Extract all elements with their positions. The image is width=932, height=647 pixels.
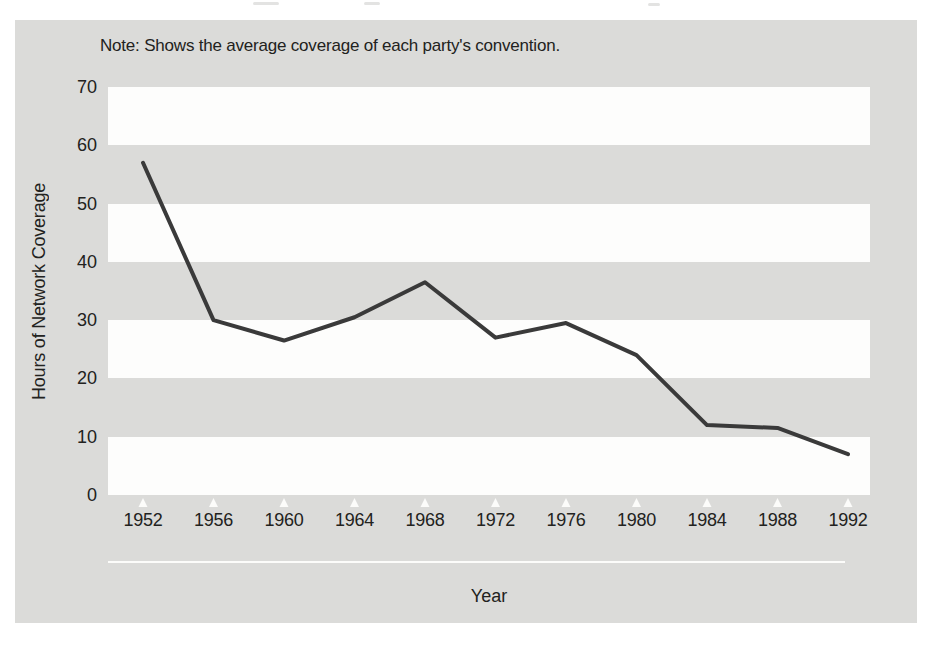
x-tick-marker bbox=[632, 498, 641, 507]
y-axis-title: Hours of Network Coverage bbox=[29, 87, 55, 495]
x-tick-marker bbox=[209, 498, 218, 507]
y-tick-label: 10 bbox=[55, 427, 97, 447]
chart-note: Note: Shows the average coverage of each… bbox=[100, 36, 560, 56]
y-tick-label: 40 bbox=[55, 252, 97, 272]
x-tick-label: 1992 bbox=[812, 509, 884, 531]
y-tick-label: 50 bbox=[55, 194, 97, 214]
x-tick-label: 1988 bbox=[742, 509, 814, 531]
scan-artifact bbox=[253, 2, 279, 5]
y-tick-label: 20 bbox=[55, 368, 97, 388]
axis-separator-line bbox=[108, 561, 845, 563]
x-tick-marker bbox=[773, 498, 782, 507]
scan-artifact bbox=[648, 3, 660, 6]
x-tick-label: 1952 bbox=[107, 509, 179, 531]
scan-artifact bbox=[364, 2, 380, 5]
x-tick-marker bbox=[280, 498, 289, 507]
x-tick-label: 1968 bbox=[389, 509, 461, 531]
data-line bbox=[143, 163, 848, 454]
x-tick-marker bbox=[491, 498, 500, 507]
x-axis-title: Year bbox=[108, 586, 870, 607]
x-tick-marker bbox=[139, 498, 148, 507]
figure-panel: Note: Shows the average coverage of each… bbox=[15, 20, 917, 623]
x-tick-marker bbox=[421, 498, 430, 507]
x-tick-marker bbox=[844, 498, 853, 507]
x-tick-marker bbox=[562, 498, 571, 507]
x-tick-label: 1976 bbox=[530, 509, 602, 531]
line-chart bbox=[108, 87, 870, 517]
x-tick-label: 1980 bbox=[601, 509, 673, 531]
y-tick-label: 30 bbox=[55, 310, 97, 330]
y-tick-label: 0 bbox=[55, 485, 97, 505]
x-tick-label: 1984 bbox=[671, 509, 743, 531]
y-tick-label: 60 bbox=[55, 135, 97, 155]
y-tick-label: 70 bbox=[55, 77, 97, 97]
x-tick-label: 1960 bbox=[248, 509, 320, 531]
x-tick-marker bbox=[350, 498, 359, 507]
x-tick-label: 1956 bbox=[178, 509, 250, 531]
x-tick-label: 1964 bbox=[319, 509, 391, 531]
x-tick-label: 1972 bbox=[460, 509, 532, 531]
x-tick-marker bbox=[703, 498, 712, 507]
